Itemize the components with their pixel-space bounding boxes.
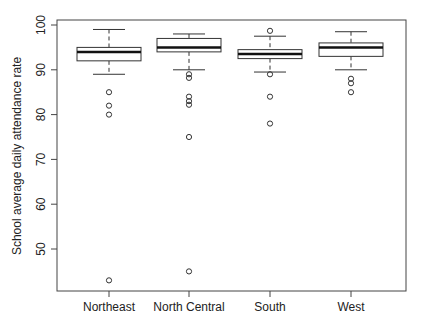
outlier-point (267, 28, 272, 33)
box-west (319, 32, 383, 95)
box-south (238, 28, 302, 126)
y-axis: 5060708090100 (34, 15, 57, 256)
outlier-point (106, 278, 111, 283)
outlier-point (106, 103, 111, 108)
chart-canvas: 5060708090100 NortheastNorth CentralSout… (0, 0, 424, 330)
box-northeast (77, 29, 141, 282)
outlier-point (186, 269, 191, 274)
iqr-box (77, 47, 141, 60)
box-north-central (157, 34, 221, 274)
x-axis: NortheastNorth CentralSouthWest (83, 291, 365, 314)
outlier-point (106, 90, 111, 95)
box-series (77, 28, 383, 283)
x-tick-label: West (337, 300, 365, 314)
outlier-point (186, 102, 191, 107)
y-tick-label: 50 (34, 242, 48, 256)
y-tick-label: 70 (34, 152, 48, 166)
outlier-point (186, 134, 191, 139)
x-tick-label: Northeast (83, 300, 136, 314)
y-tick-label: 100 (34, 15, 48, 35)
x-tick-label: North Central (153, 300, 224, 314)
outlier-point (267, 121, 272, 126)
boxplot-chart: 5060708090100 NortheastNorth CentralSout… (0, 0, 424, 330)
outlier-point (348, 90, 353, 95)
outlier-point (186, 75, 191, 80)
y-tick-label: 90 (34, 63, 48, 77)
outlier-point (267, 94, 272, 99)
y-tick-label: 60 (34, 197, 48, 211)
y-axis-label: School average daily attendance rate (10, 57, 24, 255)
x-tick-label: South (254, 300, 285, 314)
y-tick-label: 80 (34, 108, 48, 122)
iqr-box (319, 43, 383, 56)
outlier-point (106, 112, 111, 117)
iqr-box (157, 38, 221, 51)
